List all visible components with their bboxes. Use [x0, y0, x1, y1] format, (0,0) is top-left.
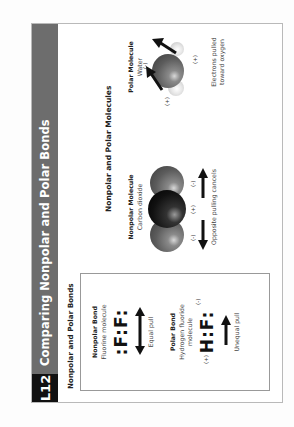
- water-charge-positive-right: (+): [192, 55, 198, 64]
- co2-charge-right: (-): [190, 181, 196, 187]
- right-arrow-icon: [221, 315, 231, 345]
- polar-bond-subtitle-2: molecule: [186, 274, 193, 390]
- diagonal-arrow-right-icon: [152, 35, 178, 57]
- polar-bond-heading: Polar Bond: [169, 274, 176, 390]
- co2-charge-left: (-): [190, 235, 196, 241]
- co2-charge-center: (+): [190, 205, 196, 214]
- nonpolar-bond-heading: Nonpolar Bond: [91, 274, 98, 390]
- page-title: Comparing Nonpolar and Polar Bonds: [38, 119, 52, 366]
- hf-charge-negative: (-): [195, 299, 201, 305]
- opposite-pulling-caption: Opposite pulling cancels: [210, 152, 217, 262]
- right-arrow-icon: [198, 168, 208, 198]
- fluorine-lewis-structure: :F:F:: [111, 274, 131, 390]
- equal-pull-caption: Equal pull: [147, 274, 154, 390]
- left-arrow-icon: [198, 220, 208, 250]
- electrons-pulled-caption-2: toward oxygen: [218, 22, 225, 102]
- lesson-badge: L12: [32, 374, 58, 402]
- polar-molecule-heading: Polar Molecule: [127, 32, 134, 102]
- right-panel-title: Nonpolar and Polar Molecules: [104, 86, 113, 212]
- polar-bond-subtitle-1: Hydrogen fluoride: [178, 274, 185, 390]
- electrons-pulled-caption-1: Electrons pulled: [210, 22, 217, 102]
- nonpolar-molecule-subtitle: Carbon dioxide: [136, 162, 143, 252]
- carbon-atom: [148, 190, 186, 228]
- water-charge-positive-left: (+): [164, 97, 170, 106]
- nonpolar-molecule-heading: Nonpolar Molecule: [127, 162, 134, 252]
- header-band: L12 Comparing Nonpolar and Polar Bonds: [32, 24, 58, 402]
- bonds-box: Nonpolar Bond Fluorine molecule :F:F: Eq…: [80, 273, 270, 391]
- unequal-pull-caption: Unequal pull: [233, 274, 240, 390]
- hf-lewis-structure: H:F:: [197, 274, 217, 390]
- left-panel-title: Nonpolar and Polar Bonds: [66, 283, 75, 389]
- nonpolar-bond-subtitle: Fluorine molecule: [100, 274, 107, 390]
- diagonal-arrow-left-icon: [144, 66, 164, 92]
- page: L12 Comparing Nonpolar and Polar Bonds N…: [0, 0, 294, 427]
- double-arrow-icon: [135, 307, 145, 355]
- slide-rotated: L12 Comparing Nonpolar and Polar Bonds N…: [31, 23, 283, 403]
